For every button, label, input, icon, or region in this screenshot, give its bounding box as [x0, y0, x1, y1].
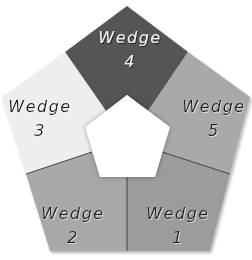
svg-text:5: 5: [208, 121, 220, 140]
svg-text:4: 4: [124, 52, 136, 71]
svg-text:Wedge: Wedge: [146, 204, 209, 223]
pentagon-wedge-diagram: Wedge 4 Wedge 3 Wedge 5 Wedge 2 Wedge 1: [0, 0, 252, 260]
svg-text:Wedge: Wedge: [182, 97, 245, 116]
svg-text:1: 1: [172, 228, 184, 247]
svg-text:Wedge: Wedge: [41, 204, 104, 223]
svg-text:Wedge: Wedge: [8, 97, 71, 116]
svg-text:3: 3: [34, 121, 46, 140]
svg-text:Wedge: Wedge: [98, 28, 161, 47]
svg-text:2: 2: [67, 228, 79, 247]
